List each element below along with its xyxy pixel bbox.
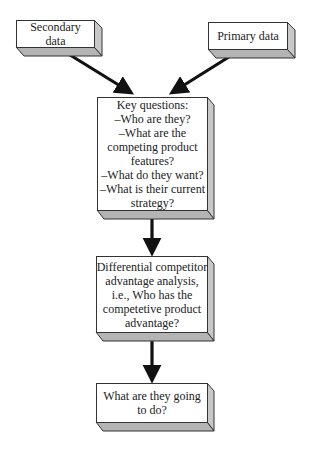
node-face: Key questions: –Who are they? –What are … xyxy=(97,97,208,211)
node-line: –What are the xyxy=(119,126,186,140)
node-line: What are they going xyxy=(103,389,201,403)
node-line: features? xyxy=(131,154,174,168)
node-face: What are they going to do? xyxy=(96,383,208,423)
node-primary-data: Primary data xyxy=(208,22,295,58)
node-face: Secondary data xyxy=(16,20,95,48)
node-line: Key questions: xyxy=(117,98,189,112)
node-line: competetive product xyxy=(103,302,201,316)
node-line: to do? xyxy=(137,403,167,417)
node-secondary-data: Secondary data xyxy=(16,20,102,56)
node-line: Differential competitor xyxy=(97,260,208,274)
node-line: advantage? xyxy=(125,316,179,330)
node-line: strategy? xyxy=(131,196,174,210)
node-line: –Who are they? xyxy=(115,112,191,126)
node-line: –What do they want? xyxy=(101,168,203,182)
node-line: –What is their current xyxy=(100,182,205,196)
node-label: Primary data xyxy=(217,29,279,43)
node-face: Differential competitor advantage analys… xyxy=(96,256,208,333)
node-future-actions: What are they going to do? xyxy=(96,383,214,431)
node-differential-analysis: Differential competitor advantage analys… xyxy=(96,256,214,341)
node-line: competing product xyxy=(107,140,197,154)
node-label: Secondary data xyxy=(21,20,90,48)
node-line: i.e., Who has the xyxy=(112,288,192,302)
node-line: advantage analysis, xyxy=(105,274,198,288)
node-key-questions: Key questions: –Who are they? –What are … xyxy=(97,97,214,219)
node-face: Primary data xyxy=(208,22,288,50)
